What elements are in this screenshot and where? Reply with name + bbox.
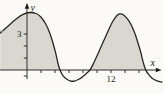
y-tick-label-3: 3 xyxy=(17,29,22,39)
x-tick-label-12: 12 xyxy=(107,74,116,84)
x-axis-arrow xyxy=(156,68,162,73)
shaded-region xyxy=(0,12,162,82)
figure-container: yx312 xyxy=(0,0,164,94)
scan-artifact-mark xyxy=(0,31,3,32)
y-axis-arrow xyxy=(25,3,30,9)
x-axis-label: x xyxy=(150,57,156,68)
sinusoid-area-chart: yx312 xyxy=(0,0,164,94)
y-axis-label: y xyxy=(30,2,36,13)
